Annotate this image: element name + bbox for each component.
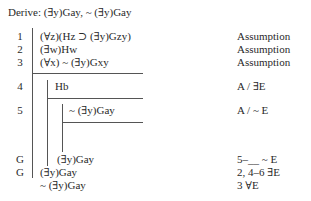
subproof-scope-line: [47, 80, 48, 166]
sub-subproof-assumption-bar: [62, 122, 143, 123]
formula: ~ (∃y)Gay: [69, 104, 115, 117]
line-number: 3: [14, 56, 26, 69]
justification: 2, 4–6 ∃E: [237, 166, 280, 179]
line-number: 1: [14, 30, 26, 43]
main-scope-line: [32, 28, 33, 178]
justification: 3 ∀E: [237, 179, 259, 192]
subproof-assumption-bar: [47, 98, 143, 99]
formula: (∀x) ~ (∃y)Gxy: [40, 56, 109, 69]
line-number: 2: [14, 43, 26, 56]
justification: Assumption: [237, 56, 290, 69]
justification: Assumption: [237, 43, 290, 56]
line-number: G: [14, 153, 26, 166]
justification: A / ∃E: [237, 80, 266, 93]
line-number: 5: [14, 104, 26, 117]
formula: (∃y)Gay: [40, 166, 77, 179]
line-number: G: [14, 166, 26, 179]
line-number: 4: [14, 80, 26, 93]
justification: 5–__ ~ E: [237, 153, 277, 166]
derivation-goal: Derive: (∃y)Gay, ~ (∃y)Gay: [8, 6, 131, 19]
formula: (∀z)(Hz ⊃ (∃y)Gzy): [40, 30, 131, 43]
formula: Hb: [55, 80, 68, 93]
formula: ~ (∃y)Gay: [40, 179, 86, 192]
assumption-bar: [32, 73, 143, 74]
justification: A / ~ E: [237, 104, 268, 117]
formula: (∃w)Hw: [40, 43, 77, 56]
justification: Assumption: [237, 30, 290, 43]
sub-subproof-scope-line: [62, 104, 63, 152]
formula: (∃y)Gay: [57, 153, 94, 166]
